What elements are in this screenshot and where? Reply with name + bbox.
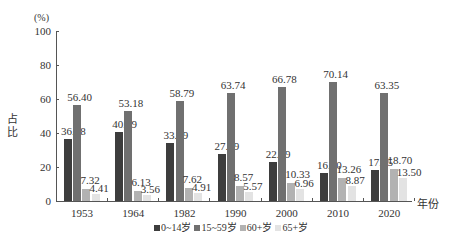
legend-swatch-icon xyxy=(194,225,200,231)
value-label: 5.57 xyxy=(243,180,262,192)
value-label: 13.50 xyxy=(397,166,422,178)
x-tick-mark xyxy=(209,198,210,201)
y-tick-label: 20 xyxy=(31,161,51,173)
x-tick-label: 2010 xyxy=(318,207,358,219)
y-tick-mark xyxy=(56,201,59,202)
value-label: 8.87 xyxy=(346,174,365,186)
value-label: 63.74 xyxy=(221,79,246,91)
legend-swatch-icon xyxy=(154,225,160,231)
legend-label: 60+岁 xyxy=(247,222,273,234)
legend-item: 15~59岁 xyxy=(194,222,236,234)
x-tick-mark xyxy=(414,198,415,201)
value-label: 4.41 xyxy=(90,182,109,194)
bar xyxy=(143,195,151,201)
y-tick-label: 80 xyxy=(31,59,51,71)
legend-item: 65+岁 xyxy=(275,222,308,234)
legend: 0~14岁15~59岁60+岁65+岁 xyxy=(154,222,311,234)
value-label: 70.14 xyxy=(323,68,348,80)
bar xyxy=(320,173,328,201)
y-axis-unit: (%) xyxy=(34,12,49,23)
bar xyxy=(348,186,356,201)
bar xyxy=(329,82,337,201)
y-tick-mark xyxy=(56,99,59,100)
bar xyxy=(227,93,235,201)
bar xyxy=(218,154,226,201)
x-tick-mark xyxy=(261,198,262,201)
value-label: 3.56 xyxy=(141,183,160,195)
bar xyxy=(296,189,304,201)
bar xyxy=(115,132,123,201)
y-tick-label: 40 xyxy=(31,127,51,139)
x-axis-label: 年份 xyxy=(417,195,439,211)
y-tick-label: 100 xyxy=(31,25,51,37)
x-tick-label: 2000 xyxy=(267,207,307,219)
legend-label: 15~59岁 xyxy=(201,222,236,234)
y-tick-label: 60 xyxy=(31,93,51,105)
x-tick-mark xyxy=(158,198,159,201)
y-tick-mark xyxy=(56,65,59,66)
y-axis-label-char-1: 占 xyxy=(7,113,19,126)
bar xyxy=(269,162,277,201)
bar xyxy=(245,192,253,201)
x-tick-label: 1953 xyxy=(62,207,102,219)
x-tick-mark xyxy=(363,198,364,201)
y-axis-line xyxy=(56,31,57,201)
x-tick-label: 1990 xyxy=(216,207,256,219)
legend-label: 0~14岁 xyxy=(161,222,191,234)
y-tick-mark xyxy=(56,167,59,168)
x-tick-label: 1982 xyxy=(164,207,204,219)
value-label: 18.70 xyxy=(388,154,413,166)
legend-swatch-icon xyxy=(275,225,281,231)
bar xyxy=(194,193,202,201)
y-tick-mark xyxy=(56,31,59,32)
y-axis-label-char-2: 比 xyxy=(7,126,19,139)
bar xyxy=(278,87,286,201)
y-tick-label: 0 xyxy=(31,195,51,207)
value-label: 4.91 xyxy=(192,181,211,193)
x-tick-label: 2020 xyxy=(369,207,409,219)
value-label: 63.35 xyxy=(374,79,399,91)
legend-item: 60+岁 xyxy=(240,222,273,234)
bar xyxy=(371,170,379,201)
bar xyxy=(380,93,388,201)
x-tick-mark xyxy=(312,198,313,201)
x-tick-label: 1964 xyxy=(113,207,153,219)
value-label: 56.40 xyxy=(67,91,92,103)
y-tick-mark xyxy=(56,133,59,134)
legend-item: 0~14岁 xyxy=(154,222,191,234)
x-tick-mark xyxy=(107,198,108,201)
value-label: 58.79 xyxy=(170,87,195,99)
bar-chart: (%) 占 比 年份 020406080100 36.2856.407.324.… xyxy=(0,0,461,249)
bar xyxy=(92,194,100,201)
value-label: 66.78 xyxy=(272,73,297,85)
bar xyxy=(73,105,81,201)
legend-label: 65+岁 xyxy=(282,222,308,234)
value-label: 6.96 xyxy=(294,177,313,189)
y-axis-label: 占 比 xyxy=(7,113,19,139)
bar xyxy=(64,139,72,201)
bar xyxy=(166,143,174,201)
bar xyxy=(176,101,184,201)
bar xyxy=(399,178,407,201)
value-label: 53.18 xyxy=(118,97,143,109)
legend-swatch-icon xyxy=(240,225,246,231)
x-axis-line xyxy=(56,201,412,202)
